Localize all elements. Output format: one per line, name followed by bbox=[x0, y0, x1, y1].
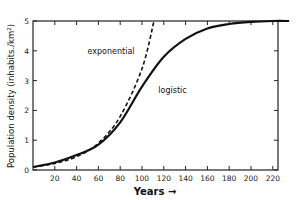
exponential-label: exponential bbox=[88, 47, 135, 56]
x-tick-label: 140 bbox=[178, 174, 193, 183]
y-tick-label: 0 bbox=[24, 166, 29, 175]
x-tick-label: 20 bbox=[50, 174, 60, 183]
exponential-curve bbox=[33, 21, 154, 167]
logistic-label: logistic bbox=[158, 86, 186, 95]
population-chart: 012345 20406080100120140160180200220 exp… bbox=[0, 0, 300, 200]
y-axis: 012345 bbox=[24, 17, 278, 175]
x-tick-label: 80 bbox=[115, 174, 125, 183]
x-tick-label: 40 bbox=[72, 174, 82, 183]
y-tick-label: 5 bbox=[24, 17, 29, 26]
plot-frame bbox=[33, 21, 278, 170]
x-tick-label: 60 bbox=[94, 174, 104, 183]
annotations: exponentiallogistic bbox=[88, 47, 187, 95]
x-tick-label: 120 bbox=[157, 174, 172, 183]
x-tick-label: 160 bbox=[200, 174, 215, 183]
y-tick-label: 1 bbox=[24, 136, 29, 145]
x-axis-label: Years → bbox=[133, 186, 177, 197]
x-tick-label: 220 bbox=[266, 174, 281, 183]
y-tick-label: 4 bbox=[24, 47, 29, 56]
x-tick-label: 100 bbox=[135, 174, 150, 183]
y-tick-label: 2 bbox=[24, 106, 29, 115]
x-tick-label: 180 bbox=[222, 174, 237, 183]
y-axis-label: Population density (inhabits./km²) bbox=[6, 24, 16, 168]
y-tick-label: 3 bbox=[24, 77, 29, 86]
plot-border bbox=[33, 21, 278, 170]
x-tick-label: 200 bbox=[244, 174, 259, 183]
x-axis: 20406080100120140160180200220 bbox=[50, 21, 280, 183]
